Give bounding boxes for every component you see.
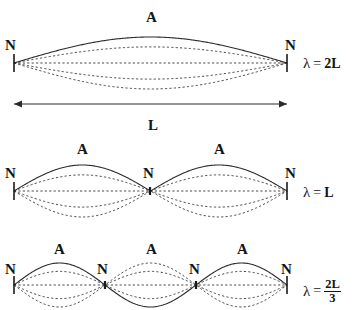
wavelength-fraction: 2L3: [324, 278, 341, 305]
wave-envelope-solid: [14, 37, 287, 63]
antinode-label-1-1: A: [146, 10, 157, 25]
antinode-label-2-2: A: [214, 142, 225, 157]
node-label-2-3: N: [285, 166, 296, 181]
fraction-numerator: 2L: [324, 278, 341, 292]
wavelength-value: 2L: [324, 57, 340, 71]
lambda-symbol: λ: [303, 284, 310, 299]
lambda-symbol: λ: [303, 185, 310, 200]
equals-sign: =: [313, 186, 321, 200]
node-label-3-2: N: [97, 262, 108, 277]
wavelength-value: L: [324, 186, 333, 200]
standing-wave-diagram: [0, 0, 357, 310]
equals-sign: =: [313, 57, 321, 71]
fraction-denominator: 3: [329, 292, 335, 305]
wavelength-label-3: λ=2L3: [303, 278, 341, 305]
length-arrow-head-left: [14, 100, 22, 107]
wave-envelope-dashed: [14, 63, 287, 89]
node-label-2-2: N: [143, 166, 154, 181]
node-label-3-4: N: [281, 262, 292, 277]
length-arrow: [14, 100, 287, 107]
length-arrow-head-right: [279, 100, 287, 107]
antinode-label-3-3: A: [237, 242, 248, 257]
wave-envelope-dashed: [14, 63, 287, 79]
wavelength-label-2: λ=L: [303, 185, 334, 200]
lambda-symbol: λ: [303, 56, 310, 71]
node-label-1-2: N: [285, 38, 296, 53]
node-label-1-1: N: [5, 38, 16, 53]
harmonic-3: [14, 263, 287, 307]
antinode-label-3-2: A: [146, 242, 157, 257]
antinode-label-2-1: A: [77, 142, 88, 157]
antinode-label-3-1: A: [54, 242, 65, 257]
equals-sign: =: [313, 284, 321, 298]
wavelength-label-1: λ=2L: [303, 56, 341, 71]
node-label-3-1: N: [5, 262, 16, 277]
length-label: L: [148, 118, 158, 133]
node-label-3-3: N: [189, 262, 200, 277]
wave-envelope-dashed: [14, 47, 287, 63]
harmonic-1: [14, 37, 287, 89]
node-label-2-1: N: [5, 166, 16, 181]
